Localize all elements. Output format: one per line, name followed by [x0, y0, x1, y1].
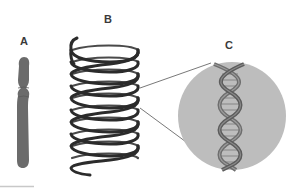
coiled-fiber [71, 38, 138, 175]
chromosome-shape [17, 57, 29, 168]
panel-label-c: C [225, 40, 233, 51]
panel-label-a: A [20, 36, 28, 47]
panel-label-b: B [104, 14, 112, 25]
dna-packaging-diagram: A B C [0, 0, 297, 188]
diagram-canvas [0, 0, 297, 188]
